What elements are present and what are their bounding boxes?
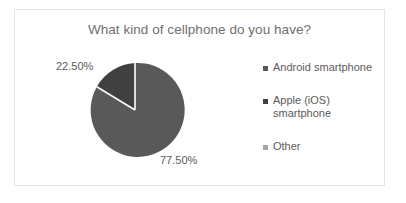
chart-legend: Android smartphone Apple (iOS) smartphon… xyxy=(263,61,383,167)
chart-frame: What kind of cellphone do you have? 22.5… xyxy=(14,9,385,186)
legend-item-label: Android smartphone xyxy=(273,61,372,74)
legend-item-label: Apple (iOS) smartphone xyxy=(273,94,331,120)
slice-label-large: 77.50% xyxy=(160,154,197,166)
legend-item-label: Other xyxy=(273,140,301,153)
legend-item-apple[interactable]: Apple (iOS) smartphone xyxy=(263,94,383,120)
legend-item-android[interactable]: Android smartphone xyxy=(263,61,383,74)
slice-label-small: 22.50% xyxy=(56,60,93,72)
plot-area: 22.50% 77.50% Android smartphone Apple (… xyxy=(15,10,386,187)
legend-marker-icon xyxy=(263,66,268,71)
pie-chart[interactable] xyxy=(85,60,185,160)
legend-marker-icon xyxy=(263,99,268,104)
legend-marker-icon xyxy=(263,145,268,150)
legend-item-other[interactable]: Other xyxy=(263,140,383,153)
